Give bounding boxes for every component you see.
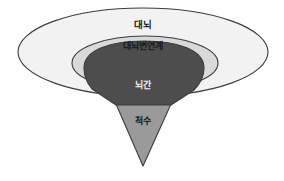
spinal-cord-triangle bbox=[116, 104, 171, 166]
brain-diagram-figure: 대뇌 대뇌변연계 뇌간 척수 bbox=[0, 0, 284, 181]
spinal-cord-label: 척수 bbox=[135, 115, 151, 126]
brain-diagram-svg: 대뇌 대뇌변연계 뇌간 척수 bbox=[0, 0, 284, 181]
brainstem-shape bbox=[84, 41, 204, 105]
cerebrum-label: 대뇌 bbox=[134, 19, 152, 30]
brainstem-label: 뇌간 bbox=[135, 79, 152, 90]
limbic-system-label: 대뇌변연계 bbox=[123, 40, 163, 51]
